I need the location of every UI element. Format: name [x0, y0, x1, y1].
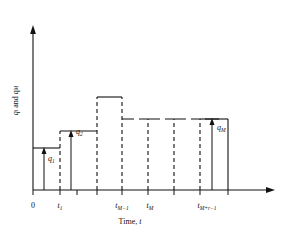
q2-label: q2 [76, 127, 83, 137]
y-axis [30, 25, 36, 190]
chart-canvas: 0 t1 tM−1 tM tM+r−1 q1 q2 qM [0, 0, 285, 240]
q1-label-sub: 1 [52, 158, 55, 164]
qM-label-sub: M [220, 127, 226, 133]
y-axis-label-sub-m: M [13, 86, 19, 91]
tick-label-tM+r-1: tM+r−1 [197, 201, 216, 211]
tick-label-origin: 0 [31, 201, 35, 210]
tick-label-tM-1-sub: M−1 [117, 205, 129, 211]
step-chart-figure: qi and qM [0, 0, 285, 240]
x-axis-title: Time, t [119, 217, 143, 226]
step-tops [33, 97, 228, 148]
y-axis-label-q: q [11, 111, 20, 115]
annotation-arrows [42, 118, 220, 190]
tick-label-t1-sub: 1 [60, 205, 63, 211]
x-axis-arrowhead [266, 187, 275, 193]
tick-label-tM+r-1-sub: M+r−1 [199, 205, 217, 211]
tick-label-tM-1: tM−1 [115, 201, 129, 211]
tick-label-t1: t1 [58, 201, 63, 211]
q-annotation-labels: q1 q2 qM [48, 123, 226, 164]
y-axis-arrowhead [30, 25, 36, 34]
x-axis-title-italic: t [139, 217, 142, 226]
tick-label-tM: tM [147, 201, 154, 211]
x-axis-ticks [33, 190, 228, 195]
q2-label-sub: 2 [80, 131, 83, 137]
qM-label: qM [217, 123, 226, 133]
y-axis-label-and: and q [11, 90, 20, 110]
x-axis-tick-labels: 0 t1 tM−1 tM tM+r−1 [31, 201, 217, 211]
y-axis-label-sub-i: i [13, 110, 19, 112]
tick-label-tM-sub: M [148, 205, 154, 211]
q1-label: q1 [48, 154, 55, 164]
step-risers [60, 97, 228, 190]
x-axis [33, 187, 275, 193]
x-axis-title-text: Time, [119, 217, 140, 226]
y-axis-label: qi and qM [11, 74, 20, 128]
